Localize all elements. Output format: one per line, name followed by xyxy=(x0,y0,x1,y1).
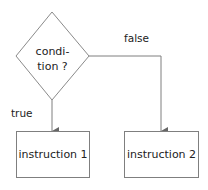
decision-line-1: condi- xyxy=(16,44,89,59)
decision-line-2: tion ? xyxy=(16,59,89,74)
decision-text: condi- tion ? xyxy=(16,44,89,74)
true-label: true xyxy=(11,108,33,119)
instruction-1-label: instruction 1 xyxy=(16,148,90,161)
flowchart-canvas xyxy=(0,0,208,190)
false-label: false xyxy=(124,33,149,44)
false-branch-arrow xyxy=(89,56,161,131)
instruction-2-label: instruction 2 xyxy=(124,148,199,161)
